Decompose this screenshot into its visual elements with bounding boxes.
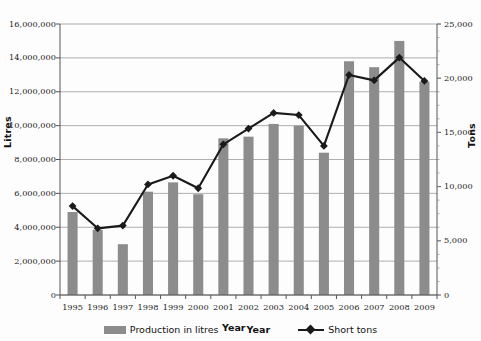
bar-swatch-icon (104, 326, 126, 334)
y-axis-tick-label: 8,000,000 (6, 154, 56, 164)
y2-axis-tick-label: 0 (444, 290, 481, 300)
y-axis-tick-label: 14,000,000 (6, 52, 56, 62)
x-axis-tick-label: 2009 (408, 302, 440, 312)
y-axis-tick-label: 0 (6, 290, 56, 300)
chart-legend: Production in litres Year Short tons (0, 324, 481, 335)
legend-item-short-tons: Short tons (298, 324, 377, 335)
line-marker-icon (298, 325, 324, 335)
bar (269, 124, 279, 295)
legend-label-year: Year (247, 324, 271, 335)
bar (193, 194, 203, 295)
legend-label-short-tons: Short tons (328, 324, 377, 335)
bar (118, 244, 128, 295)
bar (68, 212, 78, 295)
y2-axis-tick-label: 5,000 (444, 235, 481, 245)
bar (419, 82, 429, 295)
y2-axis-tick-label: 25,000 (444, 19, 481, 29)
bar (394, 41, 404, 295)
chart-container: Litres Tons Year 02,000,0004,000,0006,00… (0, 0, 481, 341)
bar (344, 61, 354, 295)
y2-axis-tick-label: 10,000 (444, 181, 481, 191)
bar (319, 153, 329, 295)
y-axis-tick-label: 12,000,000 (6, 86, 56, 96)
chart-plot-area (0, 0, 481, 341)
bar (168, 182, 178, 295)
line-marker (169, 172, 177, 180)
y-axis-tick-label: 4,000,000 (6, 222, 56, 232)
legend-axis-title: Year (247, 324, 271, 335)
bar (93, 230, 103, 295)
legend-label-production: Production in litres (130, 324, 219, 335)
y2-axis-tick-label: 15,000 (444, 127, 481, 137)
y-axis-tick-label: 16,000,000 (6, 19, 56, 29)
bar (369, 67, 379, 295)
legend-item-production: Production in litres (104, 324, 219, 335)
bar (294, 126, 304, 295)
y-axis-tick-label: 2,000,000 (6, 256, 56, 266)
bar (218, 138, 228, 295)
y-axis-tick-label: 10,000,000 (6, 120, 56, 130)
bar (143, 192, 153, 295)
y2-axis-tick-label: 20,000 (444, 73, 481, 83)
y-axis-tick-label: 6,000,000 (6, 188, 56, 198)
bar (243, 137, 253, 295)
